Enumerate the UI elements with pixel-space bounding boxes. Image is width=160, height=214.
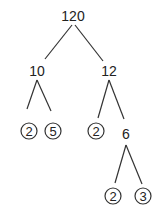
edge-12-6 (109, 80, 124, 119)
svg-text:2: 2 (25, 124, 32, 139)
edge-120-10 (45, 25, 72, 59)
svg-text:3: 3 (139, 189, 146, 204)
circled-node-2c: 2 (105, 188, 121, 204)
edge-10-5 (37, 80, 51, 111)
circled-node-3: 3 (135, 188, 151, 204)
node-12: 12 (101, 63, 117, 79)
circled-node-2a: 2 (21, 123, 37, 139)
circled-node-5: 5 (45, 123, 61, 139)
tree-edges (27, 25, 142, 184)
edge-6-3 (126, 145, 142, 184)
circled-node-2b: 2 (88, 123, 104, 139)
svg-text:5: 5 (49, 124, 56, 139)
factor-tree: 120 10 12 2 5 2 6 2 3 (0, 0, 160, 214)
svg-text:2: 2 (92, 124, 99, 139)
edge-6-2 (115, 145, 126, 183)
edge-10-2 (27, 80, 37, 109)
node-10: 10 (29, 63, 45, 79)
edge-120-12 (75, 25, 103, 61)
svg-text:2: 2 (109, 189, 116, 204)
node-6: 6 (122, 126, 130, 142)
node-root: 120 (61, 8, 85, 24)
edge-12-2 (98, 80, 109, 118)
